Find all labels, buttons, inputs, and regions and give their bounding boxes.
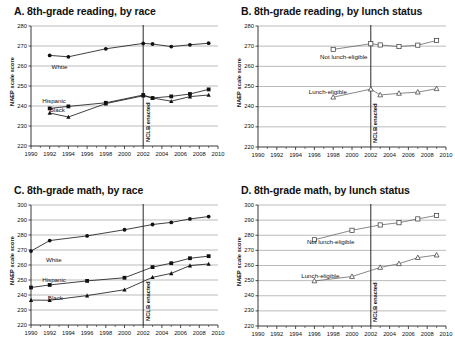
panel-d: D. 8th-grade math, by lunch status 22023… xyxy=(227,179,455,359)
x-tick-label: 2010 xyxy=(435,331,455,337)
y-tick-label: 220 xyxy=(0,322,27,328)
data-point xyxy=(141,42,145,46)
series-label-black: Black xyxy=(50,106,65,113)
y-tick-label: 220 xyxy=(227,144,254,150)
y-axis-title: NAEP scale score xyxy=(9,236,15,285)
data-point xyxy=(29,286,33,290)
data-point xyxy=(350,228,354,232)
y-axis-title: NAEP scale score xyxy=(236,57,242,106)
panel-d-plot: 2202302402502602702802903001990199219941… xyxy=(227,179,455,359)
data-point xyxy=(85,234,89,238)
y-tick-label: 230 xyxy=(227,307,254,313)
data-point xyxy=(369,42,373,46)
panel-a-plot: 2202302402502602702801990199219941996199… xyxy=(0,0,227,179)
data-point xyxy=(169,261,173,265)
data-point xyxy=(435,38,439,42)
series-lunch-eligible xyxy=(331,86,439,99)
series-white xyxy=(48,41,211,58)
y-axis-title: NAEP scale score xyxy=(236,236,242,285)
y-tick-label: 230 xyxy=(0,123,27,129)
y-tick-label: 220 xyxy=(0,143,27,149)
y-tick-label: 270 xyxy=(227,43,254,49)
x-tick-label: 2010 xyxy=(207,151,229,157)
series-label-not-lunch-eligible: Not lunch-eligible xyxy=(307,238,354,245)
series-label-hispanic: Hispanic xyxy=(42,97,66,104)
panel-a: A. 8th-grade reading, by race 2202302402… xyxy=(0,0,227,179)
data-point xyxy=(29,249,33,253)
data-point xyxy=(207,41,211,45)
data-point xyxy=(48,283,52,287)
series-label-hispanic: Hispanic xyxy=(42,276,66,283)
data-point xyxy=(151,223,155,227)
y-tick-label: 280 xyxy=(227,23,254,29)
data-point xyxy=(331,47,335,51)
data-point xyxy=(123,276,127,280)
y-tick-label: 240 xyxy=(227,292,254,298)
data-point xyxy=(434,252,439,257)
series-label-not-lunch-eligible: Not lunch-eligible xyxy=(320,53,367,60)
series-line xyxy=(31,217,209,252)
panel-c-plot: 2202302402502602702802903001990199219941… xyxy=(0,179,227,359)
data-point xyxy=(368,87,373,92)
series-label-white: White xyxy=(46,256,62,263)
y-tick-label: 280 xyxy=(0,23,27,29)
data-point xyxy=(169,95,173,99)
data-point xyxy=(397,44,401,48)
data-point xyxy=(207,88,211,92)
data-point xyxy=(169,45,173,49)
data-point xyxy=(48,54,52,58)
data-point xyxy=(151,265,155,269)
nclb-annotation-label: NCLB enacted xyxy=(145,281,151,321)
data-point xyxy=(397,221,401,225)
series-line xyxy=(50,43,209,57)
panel-b: B. 8th-grade reading, by lunch status 22… xyxy=(227,0,455,179)
y-tick-label: 290 xyxy=(0,217,27,223)
data-point xyxy=(85,279,89,283)
data-point xyxy=(416,43,420,47)
nclb-annotation-label: NCLB enacted xyxy=(372,282,378,322)
series-line xyxy=(333,89,436,97)
data-point xyxy=(207,254,211,258)
data-point xyxy=(169,221,173,225)
panel-b-plot: 2202302402502602702801990199219941996199… xyxy=(227,0,455,179)
y-tick-label: 270 xyxy=(0,43,27,49)
y-tick-label: 300 xyxy=(0,202,27,208)
y-tick-label: 300 xyxy=(227,202,254,208)
data-point xyxy=(67,105,71,109)
x-tick-label: 2010 xyxy=(207,330,229,336)
data-point xyxy=(435,213,439,217)
series-white xyxy=(29,215,210,253)
series-not-lunch-eligible xyxy=(331,38,439,51)
series-line xyxy=(333,41,436,50)
y-tick-label: 230 xyxy=(227,123,254,129)
data-point xyxy=(104,47,108,51)
y-tick-label: 220 xyxy=(227,323,254,329)
data-point xyxy=(188,256,192,260)
y-tick-label: 240 xyxy=(0,292,27,298)
nclb-annotation-label: NCLB enacted xyxy=(145,102,151,142)
data-point xyxy=(207,215,211,219)
series-label-lunch-eligible: Lunch-eligible xyxy=(301,272,339,279)
data-point xyxy=(67,55,71,59)
naep-four-panel-figure: A. 8th-grade reading, by race 2202302402… xyxy=(0,0,455,359)
y-tick-label: 230 xyxy=(0,307,27,313)
y-tick-label: 290 xyxy=(227,217,254,223)
data-point xyxy=(378,43,382,47)
data-point xyxy=(151,42,155,46)
nclb-annotation-label: NCLB enacted xyxy=(372,103,378,143)
data-point xyxy=(48,239,52,243)
data-point xyxy=(123,228,127,232)
data-point xyxy=(416,217,420,221)
data-point xyxy=(188,43,192,47)
x-tick-label: 2010 xyxy=(435,152,455,158)
y-axis-title: NAEP scale score xyxy=(9,57,15,106)
data-point xyxy=(378,223,382,227)
series-label-lunch-eligible: Lunch-eligible xyxy=(309,88,347,95)
data-point xyxy=(188,217,192,221)
series-label-black: Black xyxy=(48,294,63,301)
series-label-white: White xyxy=(52,63,68,70)
panel-c: C. 8th-grade math, by race 2202302402502… xyxy=(0,179,227,359)
